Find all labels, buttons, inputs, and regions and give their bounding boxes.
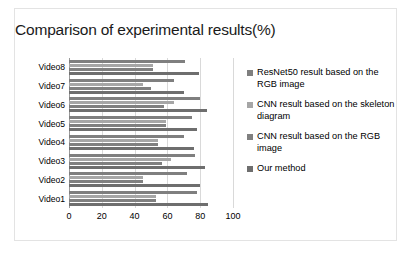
- legend-item[interactable]: CNN result based on the RGB image: [247, 131, 397, 154]
- bar-group: [69, 96, 233, 115]
- bar: [69, 91, 184, 94]
- bar: [69, 135, 184, 138]
- x-tick-label: 100: [225, 211, 240, 221]
- bar: [69, 162, 162, 165]
- bar: [69, 199, 156, 202]
- chart-title: Comparison of experimental results(%): [15, 21, 245, 39]
- x-tick-label: 60: [162, 211, 172, 221]
- x-tick-label: 80: [195, 211, 205, 221]
- bar-group: [69, 114, 233, 133]
- bar-group: [69, 77, 233, 96]
- bar: [69, 172, 187, 175]
- bar-group: [69, 152, 233, 171]
- bar: [69, 116, 192, 119]
- x-tick-label: 20: [97, 211, 107, 221]
- bar: [69, 97, 200, 100]
- bar: [69, 128, 197, 131]
- bar: [69, 184, 200, 187]
- legend-label: CNN result based on the skeleton diagram: [257, 99, 397, 122]
- bar: [69, 120, 166, 123]
- bar-group: [69, 133, 233, 152]
- bar-group: [69, 189, 233, 208]
- bar: [69, 139, 158, 142]
- x-tick-label: 0: [66, 211, 71, 221]
- legend-swatch-icon: [247, 166, 253, 172]
- bar: [69, 124, 166, 127]
- bar: [69, 87, 151, 90]
- chart-legend: ResNet50 result based on the RGB imageCN…: [247, 67, 397, 184]
- bar: [69, 191, 197, 194]
- y-axis: Video1Video2Video3Video4Video5Video6Vide…: [19, 58, 67, 208]
- legend-label: ResNet50 result based on the RGB image: [257, 67, 397, 90]
- bar: [69, 166, 205, 169]
- bar: [69, 154, 195, 157]
- legend-item[interactable]: ResNet50 result based on the RGB image: [247, 67, 397, 90]
- bar-group: [69, 171, 233, 190]
- legend-label: Our method: [257, 163, 306, 175]
- bar: [69, 68, 153, 71]
- gridline: [233, 58, 234, 208]
- x-axis: 020406080100: [69, 209, 244, 225]
- bar: [69, 105, 164, 108]
- y-category-label: Video5: [38, 119, 65, 129]
- bar: [69, 203, 208, 206]
- bar-group: [69, 58, 233, 77]
- bar: [69, 79, 174, 82]
- bar: [69, 83, 143, 86]
- bar: [69, 60, 185, 63]
- bar: [69, 180, 143, 183]
- legend-swatch-icon: [247, 134, 253, 140]
- bar: [69, 195, 156, 198]
- y-category-label: Video1: [38, 194, 65, 204]
- bar: [69, 109, 207, 112]
- legend-item[interactable]: CNN result based on the skeleton diagram: [247, 99, 397, 122]
- x-tick-label: 40: [130, 211, 140, 221]
- y-category-label: Video7: [38, 81, 65, 91]
- bar: [69, 143, 158, 146]
- y-category-label: Video3: [38, 156, 65, 166]
- bar: [69, 158, 171, 161]
- bar: [69, 101, 174, 104]
- legend-item[interactable]: Our method: [247, 163, 397, 175]
- y-category-label: Video6: [38, 100, 65, 110]
- y-category-label: Video2: [38, 175, 65, 185]
- legend-swatch-icon: [247, 102, 253, 108]
- bar: [69, 176, 143, 179]
- legend-label: CNN result based on the RGB image: [257, 131, 397, 154]
- bar: [69, 64, 153, 67]
- y-category-label: Video8: [38, 62, 65, 72]
- y-category-label: Video4: [38, 137, 65, 147]
- plot-area: [69, 58, 233, 208]
- bar: [69, 147, 194, 150]
- chart-container: Comparison of experimental results(%) Vi…: [14, 8, 397, 241]
- legend-swatch-icon: [247, 70, 253, 76]
- bar: [69, 72, 199, 75]
